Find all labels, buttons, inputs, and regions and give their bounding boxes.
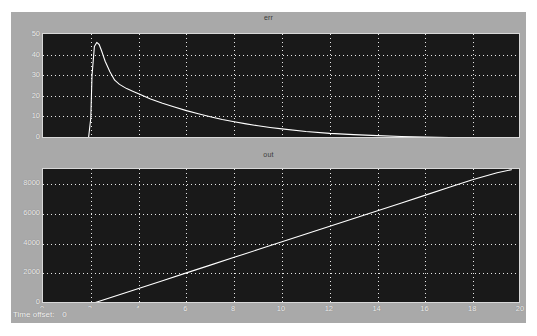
plot-area-out[interactable] <box>42 168 520 303</box>
x-tick-label: 16 <box>420 304 428 313</box>
y-axis-labels-out: 8000 6000 4000 2000 0 <box>11 149 40 320</box>
y-tick-label: 40 <box>32 51 40 59</box>
trace-line-err <box>43 34 520 138</box>
y-tick-label: 50 <box>32 30 40 38</box>
time-offset-label: Time offset: <box>13 310 54 319</box>
plot-panel-err: err 50 40 30 20 10 0 <box>11 12 526 149</box>
time-offset-value: 0 <box>62 310 66 319</box>
x-tick-label: 20 <box>516 304 524 313</box>
plot-title-out: out <box>11 151 526 159</box>
y-tick-label: 2000 <box>23 268 40 276</box>
status-bar: Time offset:0 <box>11 308 141 321</box>
x-tick-label: 14 <box>372 304 380 313</box>
y-tick-label: 0 <box>36 133 40 141</box>
plot-area-err[interactable] <box>42 33 520 138</box>
y-tick-label: 4000 <box>23 239 40 247</box>
y-tick-label: 6000 <box>23 209 40 217</box>
y-axis-labels-err: 50 40 30 20 10 0 <box>11 12 40 149</box>
x-tick-label: 8 <box>231 304 235 313</box>
plot-title-err: err <box>11 14 526 22</box>
y-tick-label: 8000 <box>23 179 40 187</box>
x-tick-label: 10 <box>277 304 285 313</box>
scope-window: err 50 40 30 20 10 0 <box>11 12 526 323</box>
y-tick-label: 20 <box>32 92 40 100</box>
x-tick-label: 12 <box>325 304 333 313</box>
x-tick-label: 6 <box>183 304 187 313</box>
y-tick-label: 10 <box>32 112 40 120</box>
screenshot-root: err 50 40 30 20 10 0 <box>0 0 537 336</box>
trace-line-out <box>43 169 520 303</box>
x-tick-label: 18 <box>468 304 476 313</box>
y-tick-label: 30 <box>32 71 40 79</box>
plot-panel-out: out 8000 6000 4000 2000 0 <box>11 149 526 320</box>
